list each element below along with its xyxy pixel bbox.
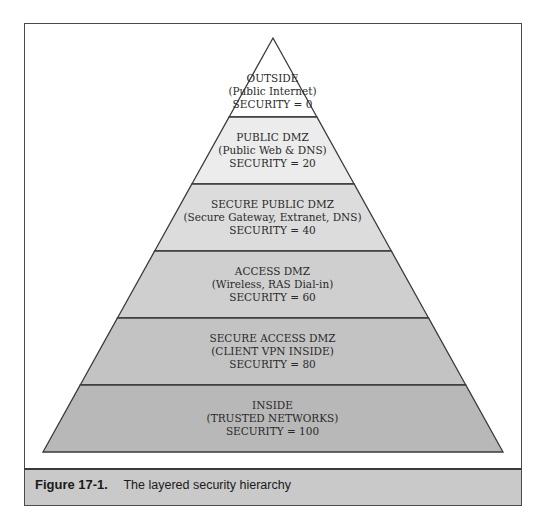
layer-security: SECURITY = 60 (0, 291, 545, 304)
layer-title: INSIDE (0, 399, 545, 412)
layer-label: SECURE PUBLIC DMZ(Secure Gateway, Extran… (0, 198, 545, 237)
layer-title: OUTSIDE (0, 72, 545, 85)
layer-label: ACCESS DMZ(Wireless, RAS Dial-in)SECURIT… (0, 265, 545, 304)
layer-label: OUTSIDE(Public Internet)SECURITY = 0 (0, 72, 545, 111)
layer-label: PUBLIC DMZ(Public Web & DNS)SECURITY = 2… (0, 131, 545, 170)
layer-security: SECURITY = 40 (0, 224, 545, 237)
figure-number: Figure 17-1. (35, 477, 108, 492)
layer-title: ACCESS DMZ (0, 265, 545, 278)
layer-subtitle: (Public Web & DNS) (0, 144, 545, 157)
layer-subtitle: (CLIENT VPN INSIDE) (0, 345, 545, 358)
layer-label: INSIDE(TRUSTED NETWORKS)SECURITY = 100 (0, 399, 545, 438)
layer-subtitle: (Public Internet) (0, 85, 545, 98)
layer-title: SECURE PUBLIC DMZ (0, 198, 545, 211)
layer-security: SECURITY = 20 (0, 157, 545, 170)
figure-caption: Figure 17-1. The layered security hierar… (24, 468, 522, 506)
layer-title: PUBLIC DMZ (0, 131, 545, 144)
layer-subtitle: (Wireless, RAS Dial-in) (0, 278, 545, 291)
layer-security: SECURITY = 0 (0, 98, 545, 111)
layer-security: SECURITY = 80 (0, 358, 545, 371)
layer-title: SECURE ACCESS DMZ (0, 332, 545, 345)
figure-caption-text: The layered security hierarchy (123, 478, 290, 492)
layer-subtitle: (TRUSTED NETWORKS) (0, 412, 545, 425)
layer-subtitle: (Secure Gateway, Extranet, DNS) (0, 211, 545, 224)
layer-label: SECURE ACCESS DMZ(CLIENT VPN INSIDE)SECU… (0, 332, 545, 371)
layer-security: SECURITY = 100 (0, 425, 545, 438)
